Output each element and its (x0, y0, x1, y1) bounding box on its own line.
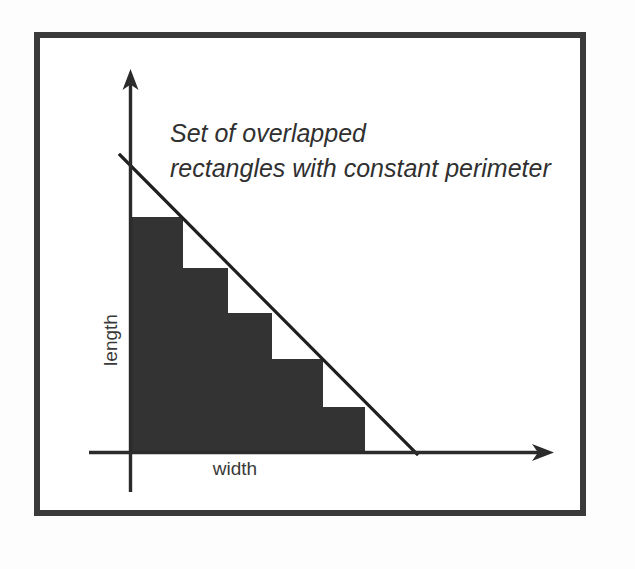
rectangle-r5 (132, 407, 365, 452)
annotation-line-1: Set of overlapped (170, 119, 367, 147)
diagram-canvas: Set of overlapped rectangles with consta… (0, 0, 635, 569)
figure-root: Set of overlapped rectangles with consta… (0, 0, 635, 569)
x-axis-label: width (212, 458, 257, 479)
rectangle-group (132, 217, 365, 452)
y-axis-label: length (100, 314, 121, 366)
annotation-line-2: rectangles with constant perimeter (170, 154, 552, 182)
